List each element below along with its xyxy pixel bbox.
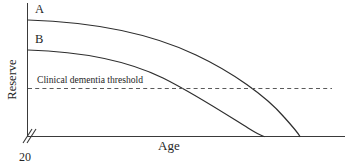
x-axis-start-tick-label: 20	[19, 150, 31, 165]
x-axis-label: Age	[158, 138, 180, 154]
curve-b	[28, 50, 264, 137]
reserve-vs-age-chart: A B Clinical dementia threshold Age Rese…	[0, 0, 351, 168]
clinical-dementia-threshold-label: Clinical dementia threshold	[37, 74, 143, 85]
curve-a-label: A	[35, 2, 44, 17]
curve-b-label: B	[35, 32, 43, 47]
y-axis-label: Reserve	[5, 52, 20, 108]
